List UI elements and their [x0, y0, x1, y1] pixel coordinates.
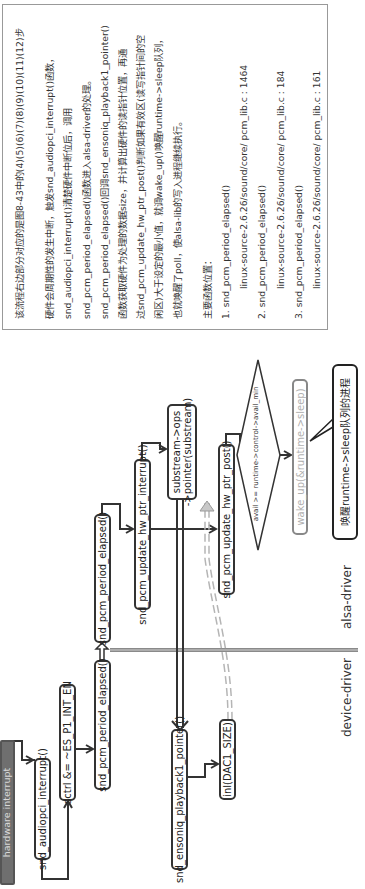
functions-title: 主要函数位置： [199, 11, 217, 319]
ensoniq-playback1-pointer-node: snd_ensoniq_playback1_pointer() [171, 729, 188, 870]
ops-pointer-line1: substream->ops [171, 411, 182, 494]
desc-line: 闲区)大于设定的最小值，就调wake_up()唤醒runtime->sleep队… [150, 11, 168, 319]
period-elapsed-alsa-node: snd_pcm_period_elapsed() [94, 514, 111, 643]
desc-line: 该流程右边部分对应的是图8-43中的(4)(5)(6)(7)(8)(9)(10)… [11, 11, 29, 319]
update-hw-ptr-post-node: snd_pcm_update_hw_ptr_post() [218, 444, 235, 595]
desc-line: 也就唤醒了poll，使alsa-lib的写入进程继续执行。 [169, 11, 187, 319]
snd-audiopci-interrupt-node: snd_audiopci_interrupt() [34, 758, 51, 860]
function-name: 3. snd_pcm_period_elapsed() [290, 11, 308, 319]
desc-line: 硬件会周期性的发生中断，触发snd_audiopci_interrupt()函数… [41, 11, 59, 319]
desc-line: snd_pcm_period_elapsed()函数进入alsa-driver的… [78, 11, 96, 319]
wake-callout-node: 唤醒runtime->sleep队列的进程 [332, 364, 358, 540]
callback-arrow [172, 497, 188, 730]
desc-line: snd_pcm_period_elapsed()回调snd_ensoniq_pl… [96, 11, 114, 319]
update-hw-ptr-interrupt-node: snd_pcm_update_hw_ptr_interrupt() [134, 459, 151, 610]
ops-pointer-node: substream->ops ->pointer(substream) [167, 404, 197, 500]
function-location: linux-source-2.6.26/sound/core/ pcm_lib.… [272, 11, 290, 319]
inl-dac1-size-node: inl(DAC1_SIZE) [219, 719, 236, 800]
description-panel: 该流程右边部分对应的是图8-43中的(4)(5)(6)(7)(8)(9)(10)… [2, 4, 328, 330]
sctrl-node: sctrl &= ~ES_P1_INT_EN [59, 684, 76, 801]
lane-label-device-driver: device-driver [340, 658, 354, 737]
lane-label-alsa-driver: alsa-driver [340, 565, 354, 629]
function-location: linux-source-2.6.26/sound/core/ pcm_lib.… [235, 11, 253, 319]
function-location: linux-source-2.6.26/sound/core/ pcm_lib.… [308, 11, 326, 319]
function-name: 2. snd_pcm_period_elapsed() [253, 11, 271, 319]
function-name: 1. snd_pcm_period_elapsed() [217, 11, 235, 319]
desc-line: 函数获取硬件为处理的数据size，并计算出硬件的读指针位置，再通 [114, 11, 132, 319]
avail-condition-label: avail >= runtime->control->avail_min [252, 379, 264, 529]
desc-line: 过snd_pcm_update_hw_ptr_post()判断如果有效区(读写指… [132, 11, 150, 319]
ops-pointer-line2: ->pointer(substream) [182, 398, 193, 507]
wake-up-node: wake_up(&runtime->sleep) [292, 379, 308, 535]
desc-line: snd_audiopci_interrupt()清楚硬件中断位后，调用 [59, 11, 77, 319]
period-elapsed-device-node: snd_pcm_period_elapsed() [94, 660, 111, 790]
diagram-canvas: 该流程右边部分对应的是图8-43中的(4)(5)(6)(7)(8)(9)(10)… [0, 0, 365, 889]
hardware-interrupt-node: hardware interrupt [0, 740, 15, 885]
